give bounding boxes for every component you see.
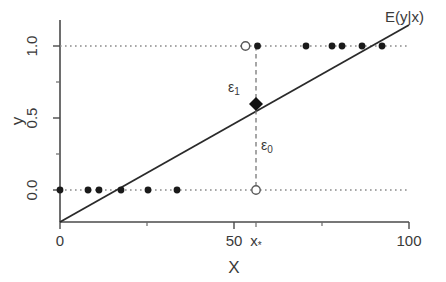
data-point <box>145 187 152 194</box>
data-point <box>379 43 386 50</box>
data-point <box>359 43 366 50</box>
x-axis-title: X <box>204 258 264 278</box>
epsilon-1-subscript: 1 <box>234 86 240 97</box>
data-point <box>118 187 125 194</box>
data-point <box>339 43 346 50</box>
x-tick-label-100: 100 <box>379 232 439 249</box>
x-star-subscript: * <box>258 240 262 251</box>
axis-x <box>60 222 409 229</box>
x-tick-label-star: x* <box>226 232 286 251</box>
data-point <box>254 43 261 50</box>
x-star-base: x <box>250 232 258 249</box>
y-tick-label-1.0: 1.0 <box>10 37 54 55</box>
open-circle-marker-y1 <box>241 42 249 50</box>
data-point <box>329 43 336 50</box>
data-point <box>85 187 92 194</box>
data-point <box>174 187 181 194</box>
data-point <box>96 187 103 194</box>
y-tick-label-0.0: 0.0 <box>10 181 54 199</box>
data-point <box>57 187 64 194</box>
regression-line <box>60 25 409 222</box>
y-axis-title: y <box>0 112 40 130</box>
x-tick-label-0: 0 <box>30 232 90 249</box>
annotation-epsilon-1: ε1 <box>228 79 240 97</box>
epsilon-0-subscript: 0 <box>267 144 273 155</box>
data-point <box>303 43 310 50</box>
regression-line-label: E(y|x) <box>385 8 424 25</box>
open-circle-marker-y0 <box>252 186 260 194</box>
annotation-epsilon-0: ε0 <box>261 137 273 155</box>
figure-scatter-linear-probability: 1.0 0.5 0.0 y 0 50 x* 100 X ε1 ε0 E(y|x) <box>0 0 446 282</box>
